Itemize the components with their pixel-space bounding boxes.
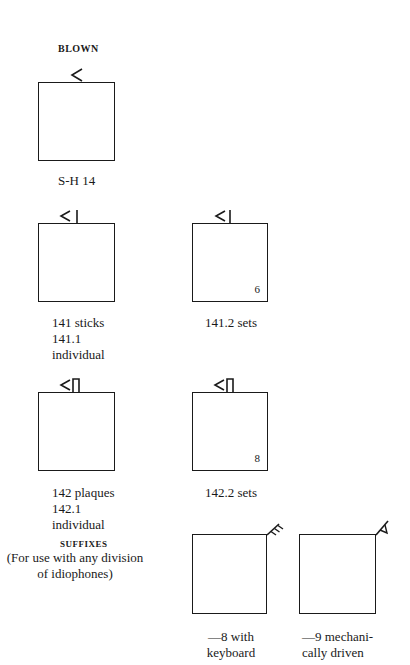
note-line: (For use with any division (0, 550, 150, 566)
caption-line: 141 sticks (52, 315, 105, 331)
caption-line: individual (52, 517, 114, 533)
plaques-individual-box (38, 392, 115, 471)
sticks-caption: 141 sticks 141.1 individual (52, 315, 105, 363)
keyboard-box (192, 534, 267, 614)
plaques-sets-caption: 142.2 sets (205, 485, 257, 501)
blown-chevron-icon (70, 68, 84, 82)
caption-line: 141.1 (52, 331, 105, 347)
sticks-individual-box (38, 223, 115, 302)
caption-line: keyboard (200, 645, 262, 661)
mechanical-caption: —9 mechani- cally driven (302, 629, 373, 661)
caption-line: —8 with (200, 629, 262, 645)
caption-line: 142 plaques (52, 485, 114, 501)
mechanical-triangle-icon (375, 520, 391, 538)
note-line: of idiophones) (0, 566, 150, 582)
sticks-sets-box: 6 (192, 223, 268, 302)
mechanical-box (299, 534, 376, 614)
caption-line: individual (52, 347, 105, 363)
sticks-sets-caption: 141.2 sets (205, 315, 257, 331)
suffixes-heading: SUFFIXES (60, 539, 108, 549)
caption-line: —9 mechani- (302, 629, 373, 645)
blown-caption: S-H 14 (58, 173, 95, 189)
suffixes-note: (For use with any division of idiophones… (0, 550, 150, 582)
blown-box (38, 82, 115, 161)
corner-number: 6 (255, 283, 261, 295)
keyboard-comb-icon (266, 522, 286, 538)
blown-heading: BLOWN (58, 43, 99, 54)
keyboard-caption: —8 with keyboard (200, 629, 262, 661)
plaques-sets-box: 8 (192, 392, 268, 471)
plaques-caption: 142 plaques 142.1 individual (52, 485, 114, 533)
corner-number: 8 (255, 452, 261, 464)
caption-line: 142.1 (52, 501, 114, 517)
caption-line: cally driven (302, 645, 373, 661)
